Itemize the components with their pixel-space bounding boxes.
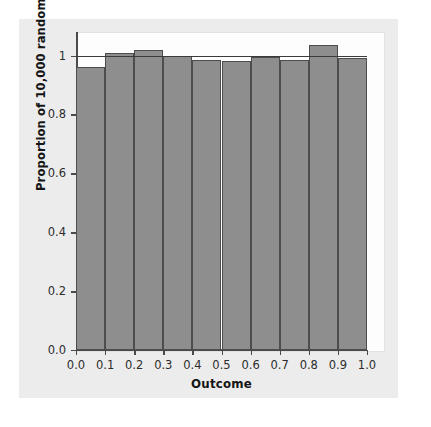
bar xyxy=(251,57,280,350)
bar xyxy=(76,67,105,350)
y-tick-mark xyxy=(71,173,76,174)
reference-line xyxy=(76,56,367,57)
y-tick-mark xyxy=(71,232,76,233)
bar xyxy=(163,56,192,350)
x-tick-label: 0.4 xyxy=(183,358,201,372)
x-tick-label: 0.1 xyxy=(96,358,114,372)
x-tick-mark xyxy=(105,350,106,355)
x-tick-label: 0.9 xyxy=(329,358,347,372)
x-tick-mark xyxy=(338,350,339,355)
x-tick-label: 0.7 xyxy=(271,358,289,372)
x-tick-label: 0.6 xyxy=(241,358,259,372)
bar xyxy=(134,50,163,350)
x-tick-mark xyxy=(222,350,223,355)
x-tick-mark xyxy=(367,350,368,355)
figure-root: 0.00.20.40.60.81 0.00.10.20.30.40.50.60.… xyxy=(0,0,431,427)
x-tick-label: 0.2 xyxy=(125,358,143,372)
y-tick-mark xyxy=(71,56,76,57)
y-tick-label: 0.4 xyxy=(48,225,66,239)
x-tick-mark xyxy=(280,350,281,355)
x-tick-label: 0.0 xyxy=(67,358,85,372)
y-tick-mark xyxy=(71,114,76,115)
x-tick-mark xyxy=(251,350,252,355)
x-tick-label: 1.0 xyxy=(358,358,376,372)
y-tick-label: 1 xyxy=(59,49,66,63)
y-tick-mark xyxy=(71,291,76,292)
bar xyxy=(192,60,221,350)
x-tick-mark xyxy=(76,350,77,355)
x-tick-mark xyxy=(192,350,193,355)
plot-area: 0.00.20.40.60.81 0.00.10.20.30.40.50.60.… xyxy=(76,32,367,350)
y-tick-label: 0.0 xyxy=(48,343,66,357)
bar xyxy=(105,53,134,350)
x-tick-label: 0.8 xyxy=(300,358,318,372)
x-axis-title: Outcome xyxy=(76,377,367,391)
y-tick-label: 0.8 xyxy=(48,107,66,121)
bar xyxy=(280,60,309,350)
bar xyxy=(222,61,251,350)
bar xyxy=(309,45,338,350)
x-tick-mark xyxy=(309,350,310,355)
x-tick-label: 0.3 xyxy=(154,358,172,372)
y-axis-title: Proportion of 10,000 random numbers xyxy=(34,0,48,191)
x-tick-mark xyxy=(134,350,135,355)
x-tick-mark xyxy=(163,350,164,355)
y-tick-label: 0.2 xyxy=(48,284,66,298)
x-tick-label: 0.5 xyxy=(212,358,230,372)
y-tick-label: 0.6 xyxy=(48,166,66,180)
bar xyxy=(338,58,367,350)
